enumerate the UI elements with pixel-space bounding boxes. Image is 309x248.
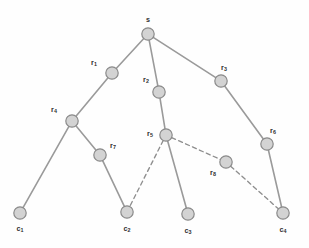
edge-r4-r7-solid (76, 126, 96, 150)
node-c3[interactable] (182, 208, 194, 220)
node-label-r3: r3 (221, 64, 227, 71)
node-label-r7: r7 (110, 142, 116, 149)
node-label-r2: r2 (143, 76, 149, 83)
node-r5[interactable] (160, 129, 172, 141)
node-label-c1: c1 (16, 225, 23, 232)
node-label-r6: r6 (270, 127, 276, 134)
edge-r6-c4-solid (268, 150, 281, 207)
node-r2[interactable] (153, 86, 165, 98)
node-label-s: s (146, 16, 150, 23)
node-r3[interactable] (215, 75, 227, 87)
edge-s-r3-solid (153, 37, 216, 77)
edge-r2-r5-solid (160, 98, 165, 129)
edge-r4-c1-solid (23, 126, 69, 207)
node-c2[interactable] (121, 206, 133, 218)
node-s[interactable] (142, 28, 154, 40)
edge-r7-c2-solid (103, 161, 125, 207)
node-r4[interactable] (66, 115, 78, 127)
node-c4[interactable] (277, 207, 289, 219)
edge-r5-r8-dashed (172, 138, 221, 160)
node-r1[interactable] (106, 67, 118, 79)
node-label-c4: c4 (279, 226, 286, 233)
edge-r3-r6-solid (225, 86, 264, 139)
node-r7[interactable] (94, 149, 106, 161)
node-r8[interactable] (220, 156, 232, 168)
edge-r5-c2-dashed (130, 141, 163, 207)
node-label-r8: r8 (210, 169, 216, 176)
node-label-c3: c3 (184, 227, 191, 234)
node-label-r5: r5 (147, 130, 153, 137)
edge-s-r2-solid (149, 40, 158, 86)
edge-s-r1-solid (116, 39, 144, 69)
node-label-c2: c2 (123, 225, 130, 232)
node-label-r4: r4 (51, 106, 57, 113)
edge-r8-c4-dashed (231, 166, 279, 209)
graph-svg (0, 0, 309, 248)
node-c1[interactable] (14, 207, 26, 219)
edge-layer (23, 37, 282, 209)
node-r6[interactable] (261, 138, 273, 150)
node-label-r1: r1 (91, 59, 97, 66)
diagram-canvas: sr1r2r3r4r5r6r7r8c1c2c3c4 (0, 0, 309, 248)
edge-r5-c3-solid (168, 141, 187, 208)
edge-r1-r4-solid (76, 78, 108, 116)
